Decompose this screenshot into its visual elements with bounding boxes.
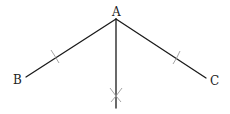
segment-ac	[116, 19, 206, 78]
label-a: A	[111, 5, 121, 19]
angle-bisector-diagram: A B C	[0, 0, 230, 114]
segment-ab	[26, 19, 116, 77]
label-c: C	[210, 74, 219, 88]
label-b: B	[13, 73, 22, 87]
